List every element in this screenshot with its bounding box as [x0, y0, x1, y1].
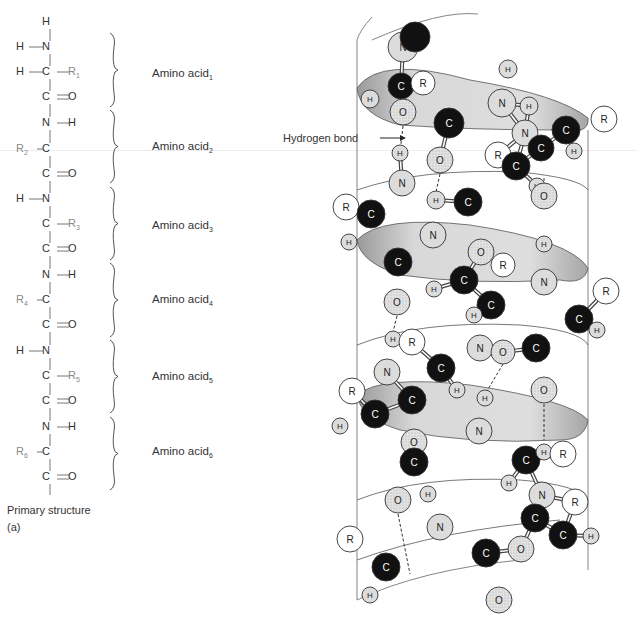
hydrogen-atom: H	[477, 390, 493, 406]
atom-label: N	[42, 345, 50, 356]
svg-text:H: H	[337, 422, 343, 431]
svg-text:H: H	[526, 102, 532, 111]
carbon-atom: C	[522, 334, 550, 362]
atom-label: C	[42, 319, 50, 330]
atom-label: C	[42, 168, 50, 179]
svg-text:R: R	[602, 286, 609, 297]
atom-label: C	[42, 66, 50, 77]
carbon-atom: C	[398, 386, 426, 414]
svg-text:C: C	[408, 395, 415, 406]
svg-text:C: C	[531, 513, 538, 524]
carbon-atom: C	[427, 354, 455, 382]
svg-text:N: N	[538, 490, 545, 501]
hydrogen-atom: H	[449, 382, 465, 398]
svg-text:H: H	[367, 95, 373, 104]
hydrogen-atom: H	[536, 236, 552, 252]
svg-text:H: H	[397, 149, 403, 158]
carbon-atom: C	[450, 266, 478, 294]
svg-text:C: C	[445, 118, 452, 129]
r-group-atom: R	[593, 278, 619, 304]
oxygen-atom: O	[531, 183, 557, 209]
oxygen-atom: O	[508, 536, 534, 562]
svg-text:O: O	[540, 385, 548, 396]
atom-label: C	[42, 91, 50, 102]
oxygen-atom: O	[385, 487, 411, 513]
carbon-atom: C	[372, 553, 400, 581]
hydrogen-atom: H	[332, 418, 348, 434]
carbon-atom: C	[502, 152, 530, 180]
svg-text:H: H	[431, 285, 437, 294]
carbon-atom: C	[552, 116, 580, 144]
svg-text:O: O	[540, 191, 548, 202]
svg-text:N: N	[498, 98, 505, 109]
svg-text:C: C	[371, 409, 378, 420]
oxygen-atom: O	[390, 99, 416, 125]
svg-text:C: C	[460, 275, 467, 286]
r-group-label: R5	[68, 370, 80, 383]
svg-text:O: O	[517, 544, 525, 555]
atom-label: O	[68, 395, 77, 406]
atom-label: C	[42, 395, 50, 406]
svg-text:C: C	[382, 562, 389, 573]
hydrogen-atom: H	[392, 145, 408, 161]
r-group-atom: R	[591, 106, 617, 132]
atom-label: H	[68, 421, 76, 432]
hydrogen-atom: H	[466, 307, 482, 323]
svg-text:C: C	[394, 257, 401, 268]
r-group-atom: R	[411, 71, 435, 95]
amino-acid-label-4: Amino acid4	[152, 293, 213, 307]
r-group-atom: R	[550, 441, 576, 467]
svg-text:C: C	[512, 161, 519, 172]
atom-label: H	[68, 269, 76, 280]
carbon-atom	[400, 22, 430, 52]
atom-label: N	[42, 269, 50, 280]
hydrogen-atom: H	[501, 475, 517, 491]
atom-label: O	[68, 243, 77, 254]
svg-text:O: O	[477, 247, 485, 258]
svg-text:R: R	[348, 386, 355, 397]
svg-text:C: C	[562, 125, 569, 136]
atom-label: C	[42, 370, 50, 381]
atom-label: N	[42, 41, 50, 52]
hydrogen-atom: H	[341, 234, 357, 250]
svg-text:N: N	[436, 522, 443, 533]
oxygen-atom: O	[468, 239, 494, 265]
nitrogen-atom: N	[466, 418, 492, 444]
amino-acid-label-6: Amino acid6	[152, 445, 213, 459]
svg-text:H: H	[594, 326, 600, 335]
atom-label: N	[42, 193, 50, 204]
svg-text:N: N	[383, 367, 390, 378]
r-group-atom: R	[333, 194, 359, 220]
carbon-atom: C	[454, 188, 482, 216]
atom-label: H	[16, 193, 24, 204]
svg-text:N: N	[521, 128, 528, 139]
carbon-atom: C	[361, 400, 389, 428]
hydrogen-atom: H	[499, 60, 517, 78]
svg-text:C: C	[464, 197, 471, 208]
svg-text:N: N	[398, 178, 405, 189]
svg-text:C: C	[437, 363, 444, 374]
atom-label: C	[42, 471, 50, 482]
svg-text:H: H	[454, 386, 460, 395]
svg-text:C: C	[522, 455, 529, 466]
svg-text:H: H	[367, 591, 373, 600]
svg-text:C: C	[487, 300, 494, 311]
svg-text:H: H	[571, 147, 577, 156]
carbon-atom: C	[521, 504, 549, 532]
svg-text:H: H	[588, 532, 594, 541]
r-group-atom: R	[491, 253, 515, 277]
svg-text:C: C	[559, 530, 566, 541]
carbon-atom: C	[472, 539, 500, 567]
svg-text:O: O	[393, 297, 401, 308]
nitrogen-atom: N	[427, 514, 453, 540]
svg-text:C: C	[537, 143, 544, 154]
svg-text:N: N	[540, 277, 547, 288]
oxygen-atom: O	[486, 587, 512, 613]
nitrogen-atom: N	[420, 222, 446, 248]
atom-label: O	[68, 471, 77, 482]
svg-text:C: C	[575, 314, 582, 325]
atom-label: C	[42, 446, 50, 457]
svg-text:R: R	[346, 534, 353, 545]
carbon-atom: C	[384, 248, 412, 276]
hydrogen-atom: H	[426, 281, 442, 297]
